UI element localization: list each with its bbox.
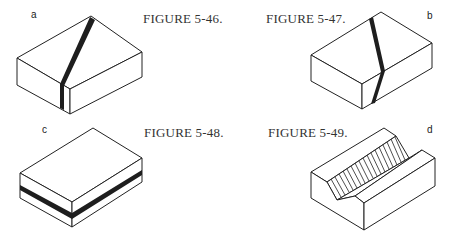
figure-d-caption: FIGURE 5-49. bbox=[268, 125, 348, 140]
figure-b-block bbox=[311, 12, 432, 109]
figure-c-letter: c bbox=[42, 124, 47, 135]
figure-d-block bbox=[311, 128, 435, 230]
figure-b-letter: b bbox=[427, 10, 433, 21]
figure-a-block bbox=[17, 16, 142, 114]
figure-b-caption: FIGURE 5-47. bbox=[266, 11, 346, 26]
figure-sheet: a FIGURE 5-46. b FIGURE 5-47. c FIGURE 5… bbox=[0, 0, 452, 246]
figure-c-block bbox=[20, 128, 142, 227]
figure-a-letter: a bbox=[31, 9, 37, 20]
figure-c-caption: FIGURE 5-48. bbox=[144, 125, 224, 140]
figure-d-letter: d bbox=[427, 124, 433, 135]
figure-a-caption: FIGURE 5-46. bbox=[143, 11, 223, 26]
